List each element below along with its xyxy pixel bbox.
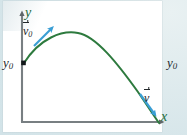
x-axis-label: x xyxy=(161,110,167,124)
velocity-label: v xyxy=(144,92,149,104)
y-initial-right-subscript: 0 xyxy=(173,61,177,71)
y-initial-label-right: y0 xyxy=(167,56,177,71)
launch-point-marker xyxy=(21,61,26,66)
velocity-symbol: v xyxy=(144,92,149,104)
y-initial-label: y0 xyxy=(3,56,13,71)
y-initial-subscript: 0 xyxy=(9,61,13,71)
initial-velocity-subscript: 0 xyxy=(28,30,32,39)
y-axis-label: y xyxy=(25,6,31,20)
projectile-motion-figure: y x y0 y0 v0 v xyxy=(0,0,187,135)
initial-velocity-label: v0 xyxy=(23,25,32,39)
projectile-trajectory-curve xyxy=(24,32,159,123)
initial-velocity-symbol: v xyxy=(23,25,28,37)
